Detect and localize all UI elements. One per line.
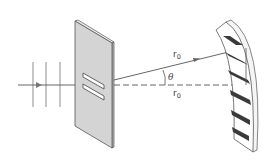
label-r0-upper: r0 [173,49,181,61]
label-theta: θ [168,72,174,82]
arrow-icon [36,82,42,88]
arrow-icon [193,58,200,62]
label-r0-lower: r0 [173,88,181,100]
detection-screen [216,20,258,152]
slit-barrier [75,20,114,148]
theta-arc [163,70,165,85]
diagram-canvas: r0 θ r0 [0,0,276,161]
incident-ray [18,82,84,88]
double-slit-diagram: r0 θ r0 [0,0,276,161]
